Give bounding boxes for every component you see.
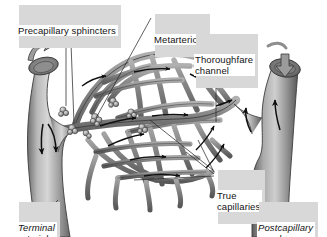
precapillary-sphincter (59, 107, 69, 117)
precapillary-sphincter (83, 130, 91, 138)
label-true-capillaries: True capillaries (216, 168, 262, 223)
label-thoroughfare-channel-text: Thoroughfare channel (194, 54, 255, 76)
label-precapillary-sphincters-text: Precapillary sphincters (17, 25, 118, 36)
label-postcapillary-venule-text: Postcapillary venule (257, 222, 315, 237)
label-thoroughfare-channel: Thoroughfare channel (194, 32, 255, 87)
precapillary-sphincter (109, 98, 119, 108)
label-terminal-arteriole-text: Terminal arteriole (17, 222, 57, 237)
label-terminal-arteriole: Terminal arteriole (17, 200, 57, 237)
capillary-bed-figure: Precapillary sphincters Metarteriole Tho… (0, 0, 327, 237)
label-precapillary-sphincters: Precapillary sphincters (17, 3, 118, 47)
label-true-capillaries-text: True capillaries (216, 190, 262, 212)
label-postcapillary-venule: Postcapillary venule (257, 200, 315, 237)
